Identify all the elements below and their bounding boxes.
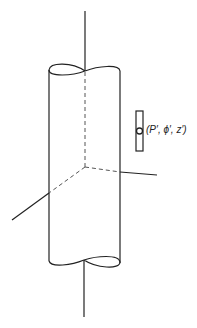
y-axis-hidden	[49, 167, 85, 193]
cylinder-diagram	[0, 0, 197, 328]
source-point-label: (P′, ϕ′, z′)	[146, 124, 187, 135]
x-axis-visible	[120, 172, 157, 175]
x-axis-hidden	[85, 167, 120, 172]
source-point	[137, 128, 143, 134]
y-axis-visible	[12, 193, 49, 220]
